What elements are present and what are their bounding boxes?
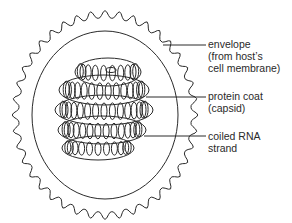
protein-coat-capsid — [55, 58, 153, 160]
rna-coil-loop — [79, 142, 85, 155]
envelope-label-line3: cell membrane) — [208, 62, 280, 74]
envelope-label: envelope (from host’s cell membrane) — [208, 38, 280, 74]
protein-coat-label: protein coat (capsid) — [208, 90, 263, 114]
envelope-spikes — [12, 11, 198, 220]
rna-coil-loop — [92, 65, 98, 80]
rna-coil-loop — [80, 123, 86, 138]
protein-coat-label-line2: (capsid) — [208, 102, 263, 114]
rna-coil-loop — [105, 83, 111, 100]
capsid-ring — [59, 75, 149, 105]
rna-coil-loop — [87, 142, 93, 155]
rna-coil-loop — [125, 103, 131, 120]
capsid-top-center — [106, 68, 116, 73]
envelope-label-line1: envelope — [208, 38, 280, 50]
rna-coil-loop — [77, 103, 83, 120]
protein-coat-label-line1: protein coat — [208, 90, 263, 102]
rna-coil-loop — [118, 123, 124, 138]
envelope-label-line2: (from host’s — [208, 50, 280, 62]
coiled-rna-label-line1: coiled RNA — [208, 130, 261, 142]
rna-coil-loop — [101, 65, 107, 80]
coiled-rna-label: coiled RNA strand — [208, 130, 261, 154]
inner-membrane — [32, 31, 178, 199]
rna-coil-loop — [93, 103, 99, 120]
rna-coil-loop — [89, 83, 95, 100]
rna-coil-loop — [118, 65, 124, 80]
coiled-rna-label-line2: strand — [208, 142, 261, 154]
